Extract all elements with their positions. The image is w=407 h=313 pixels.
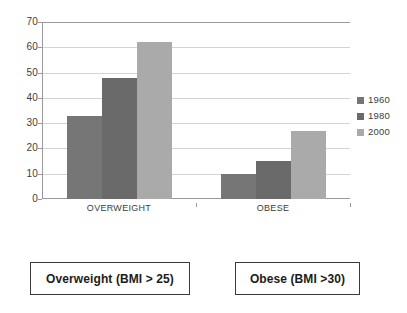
caption-label-overweight: Overweight (BMI > 25) [46, 272, 174, 286]
x-axis-end-tick [350, 203, 351, 207]
y-tick-label-70: 70 [26, 17, 38, 27]
caption-row: Overweight (BMI > 25) Obese (BMI >30) [0, 262, 407, 302]
bar-overweight-2000 [137, 42, 172, 199]
y-tick-label-50: 50 [26, 68, 38, 78]
bar-overweight-1980 [102, 78, 137, 199]
bar-obese-1980 [256, 161, 291, 199]
legend-swatch-1960 [357, 97, 364, 104]
y-tick-label-10: 10 [26, 169, 38, 179]
legend-entry-1960: 1960 [357, 92, 407, 108]
caption-label-obese: Obese (BMI >30) [250, 272, 345, 286]
x-axis: OVERWEIGHTOBESE [42, 203, 350, 221]
y-tick-label-20: 20 [26, 143, 38, 153]
y-axis: 010203040506070 [0, 22, 38, 199]
legend-label-1960: 1960 [368, 95, 390, 105]
bar-chart-figure: 010203040506070 OVERWEIGHTOBESE 19601980… [0, 0, 407, 240]
y-tick-label-40: 40 [26, 93, 38, 103]
legend-label-1980: 1980 [368, 111, 390, 121]
bar-overweight-1960 [67, 116, 102, 199]
x-tick-label-obese: OBESE [257, 203, 290, 213]
caption-box-overweight: Overweight (BMI > 25) [30, 262, 190, 295]
x-axis-divider [196, 203, 197, 207]
x-tick-label-overweight: OVERWEIGHT [87, 203, 151, 213]
caption-box-obese: Obese (BMI >30) [235, 262, 360, 295]
bar-obese-2000 [291, 131, 326, 199]
legend-swatch-1980 [357, 113, 364, 120]
legend-entry-1980: 1980 [357, 108, 407, 124]
bars-layer [42, 22, 350, 199]
y-tick-label-60: 60 [26, 42, 38, 52]
y-tick-mark-0 [38, 199, 42, 200]
chart-legend: 196019802000 [357, 92, 407, 140]
legend-label-2000: 2000 [368, 127, 390, 137]
bar-obese-1960 [221, 174, 256, 199]
y-tick-label-30: 30 [26, 118, 38, 128]
legend-entry-2000: 2000 [357, 124, 407, 140]
legend-swatch-2000 [357, 129, 364, 136]
